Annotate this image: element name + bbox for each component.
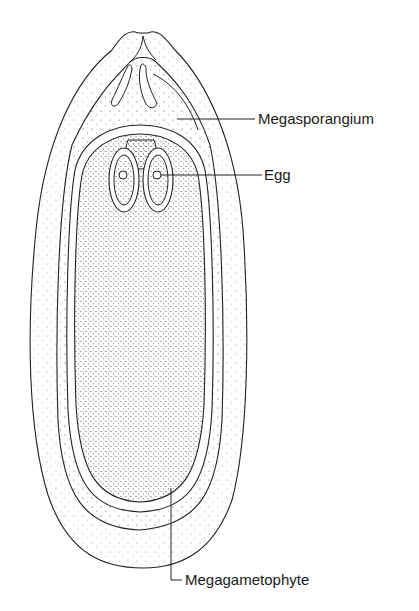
- label-megagametophyte: Megagametophyte: [185, 572, 309, 587]
- label-egg: Egg: [264, 167, 291, 182]
- egg-nucleus: [153, 171, 161, 179]
- megagametophyte: [75, 134, 206, 502]
- ovule-diagram: [0, 0, 419, 611]
- label-megasporangium: Megasporangium: [258, 111, 374, 126]
